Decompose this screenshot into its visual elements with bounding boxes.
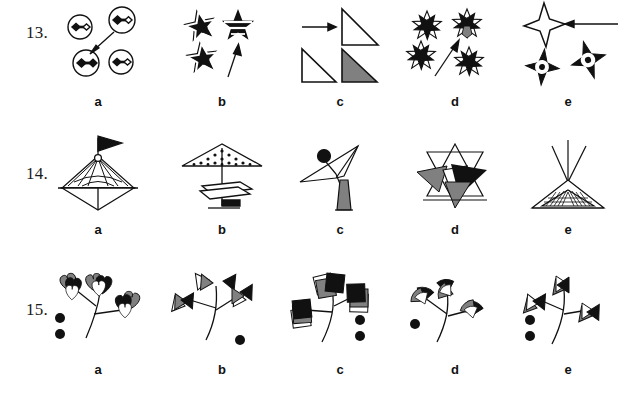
leaf-right — [460, 297, 484, 318]
option-14-b[interactable]: b — [162, 130, 282, 252]
option-label-13-a: a — [38, 94, 158, 109]
leaf-right — [115, 290, 141, 318]
pennant-flag — [98, 136, 122, 151]
option-13-a[interactable]: a — [38, 0, 158, 120]
figure-15-a — [38, 262, 158, 357]
leaf-left — [59, 272, 82, 300]
figure-13-c — [280, 0, 400, 90]
figure-14-a — [38, 130, 158, 220]
star-outline-top-left — [524, 3, 565, 47]
dot-markers — [525, 315, 535, 341]
worksheet-page: 13. — [0, 0, 642, 402]
base-flag — [222, 200, 240, 206]
option-label-15-c: c — [280, 362, 400, 377]
figure-14-c — [280, 130, 400, 220]
option-15-a[interactable]: a — [38, 262, 158, 402]
option-label-15-d: d — [395, 362, 515, 377]
leaf-right — [347, 284, 369, 313]
star-banded-top-right — [222, 9, 254, 40]
star-bottom-left — [184, 39, 222, 76]
question-row-15: 15. — [0, 262, 642, 402]
rosette-top-right-gray — [451, 6, 485, 40]
option-13-d[interactable]: d — [395, 0, 515, 120]
leaf-left — [409, 282, 435, 304]
circle-barbell-top-right — [109, 7, 135, 33]
stem-group — [76, 290, 122, 338]
transform-arrow-13-e — [565, 21, 618, 28]
option-13-e[interactable]: e — [508, 0, 628, 120]
option-15-c[interactable]: c — [280, 262, 400, 402]
figure-15-d — [395, 262, 515, 357]
figure-15-b — [162, 262, 282, 357]
star-top-left — [181, 6, 220, 45]
option-label-14-b: b — [162, 222, 282, 237]
figure-13-a — [38, 0, 158, 90]
stem-group — [190, 286, 238, 340]
triangle-outline-bottom-left — [302, 49, 336, 82]
leaf-top — [553, 276, 569, 297]
leaf-top — [313, 273, 345, 298]
triangle-outline-top-right — [342, 9, 378, 45]
dot-markers — [55, 313, 65, 339]
option-15-e[interactable]: e — [508, 262, 628, 402]
gray-triangle-bottom — [445, 182, 471, 208]
leaf-top — [85, 273, 113, 297]
dot-markers — [235, 335, 245, 345]
rosette-top-left — [411, 8, 445, 42]
option-label-14-c: c — [280, 222, 400, 237]
mast-ring — [95, 155, 102, 162]
figure-13-e — [508, 0, 628, 90]
option-13-b[interactable]: b — [162, 0, 282, 120]
option-label-13-e: e — [508, 94, 628, 109]
question-row-13: 13. — [0, 0, 642, 120]
leaf-right — [232, 284, 252, 308]
dot-markers — [410, 319, 420, 329]
transform-arrow-13-c — [302, 24, 336, 31]
option-label-15-e: e — [508, 362, 628, 377]
option-15-b[interactable]: b — [162, 262, 282, 402]
rosette-bottom-left — [405, 38, 439, 72]
stem-group — [425, 292, 471, 342]
star-filled-bottom-right — [567, 37, 610, 82]
option-label-13-c: c — [280, 94, 400, 109]
ball-knob — [318, 150, 331, 163]
option-label-13-d: d — [395, 94, 515, 109]
option-label-15-a: a — [38, 362, 158, 377]
transform-arrow-13-b — [228, 44, 241, 77]
teepee-poles — [552, 140, 586, 182]
figure-14-b — [162, 130, 282, 220]
dot-markers — [355, 315, 365, 341]
leaf-left — [523, 293, 545, 316]
leaf-left — [291, 299, 312, 328]
question-row-14: 14. — [0, 130, 642, 252]
option-13-c[interactable]: c — [280, 0, 400, 120]
option-14-e[interactable]: e — [508, 130, 628, 252]
leaf-left — [172, 292, 194, 314]
triangle-gray-bottom-right — [342, 49, 377, 82]
figure-13-b — [162, 0, 282, 90]
option-14-d[interactable]: d — [395, 130, 515, 252]
option-label-14-d: d — [395, 222, 515, 237]
option-label-14-e: e — [508, 222, 628, 237]
figure-14-e — [508, 130, 628, 220]
option-14-c[interactable]: c — [280, 130, 400, 252]
figure-15-c — [280, 262, 400, 357]
figure-13-d — [395, 0, 515, 90]
figure-14-d — [395, 130, 515, 220]
option-label-15-b: b — [162, 362, 282, 377]
circle-barbell-top-left — [68, 15, 92, 39]
figure-15-e — [508, 262, 628, 357]
gray-base-triangle — [337, 180, 351, 210]
option-label-13-b: b — [162, 94, 282, 109]
star-filled-bottom-left — [523, 47, 561, 87]
leaf-right — [579, 303, 599, 324]
option-14-a[interactable]: a — [38, 130, 158, 252]
transform-arrow-13-a — [90, 32, 114, 54]
circle-barbell-bottom-left — [73, 50, 99, 76]
circle-barbell-bottom-right — [109, 50, 133, 74]
option-label-14-a: a — [38, 222, 158, 237]
leaf-top — [433, 274, 456, 301]
option-15-d[interactable]: d — [395, 262, 515, 402]
